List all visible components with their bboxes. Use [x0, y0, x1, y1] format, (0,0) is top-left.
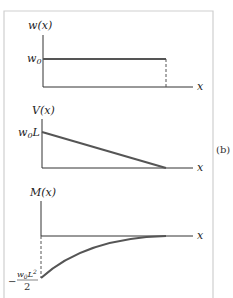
load-y-tick-label: w0 [27, 52, 42, 66]
load-y-axis-label: w(x) [28, 19, 52, 32]
shear-curve [42, 132, 166, 168]
shear-plot: V(x) x w0L [18, 104, 204, 174]
shear-y-axis-label: V(x) [32, 104, 55, 117]
moment-plot: M(x) x − w0L2 2 [8, 186, 204, 292]
moment-curve [41, 236, 166, 278]
moment-x-axis-label: x [197, 229, 204, 242]
moment-y-tick-label: − w0L2 2 [8, 268, 38, 292]
fraction-numerator: w0L2 [17, 268, 37, 280]
moment-y-axis-label: M(x) [29, 186, 56, 199]
beam-diagram: w(x) x w0 V(x) x w0L (b) M(x) x − w0L2 2 [0, 0, 233, 298]
fraction-denominator: 2 [24, 281, 30, 292]
shear-x-axis-label: x [197, 161, 204, 174]
panel-label: (b) [216, 144, 230, 155]
load-x-axis-label: x [197, 80, 204, 93]
minus-sign: − [8, 276, 16, 287]
load-plot: w(x) x w0 [27, 19, 204, 93]
shear-y-tick-label: w0L [18, 126, 40, 140]
